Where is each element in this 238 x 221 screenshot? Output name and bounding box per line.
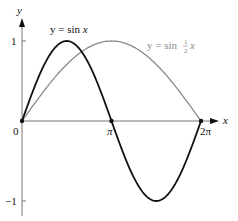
x-axis-arrow-icon	[210, 118, 219, 124]
fraction-numerator: 1	[184, 38, 188, 46]
sine-comparison-chart: y x 0 π 2π 1 −1 y = sin x y = sin 1 2 x	[0, 0, 238, 221]
marked-point	[20, 119, 24, 123]
sin-x-annotation: y = sin x	[50, 23, 88, 35]
y-axis-label: y	[16, 4, 22, 16]
y-tick-label-1: 1	[11, 35, 17, 47]
marked-point	[109, 119, 113, 123]
y-axis-arrow-icon	[19, 18, 25, 27]
marked-point	[199, 119, 203, 123]
curve-sin-half-x	[22, 41, 201, 121]
origin-label: 0	[13, 125, 19, 137]
y-tick-label-neg1: −1	[5, 195, 17, 207]
axes	[19, 18, 219, 216]
pi-tick-label: π	[107, 125, 113, 137]
svg-text:x: x	[189, 39, 195, 51]
sin-half-x-annotation: y = sin 1 2 x	[147, 38, 195, 55]
fraction-denominator: 2	[184, 47, 188, 55]
two-pi-tick-label: 2π	[200, 125, 212, 137]
svg-text:y = sin: y = sin	[147, 39, 178, 51]
x-axis-label: x	[222, 114, 228, 126]
